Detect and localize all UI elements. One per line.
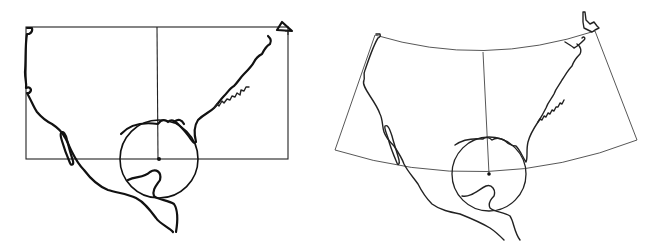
center-point xyxy=(157,157,161,161)
gulf-north-coast xyxy=(121,36,271,143)
south-parallel xyxy=(335,140,637,172)
northeast-coast-detail xyxy=(538,100,564,122)
west-coastline xyxy=(25,28,173,232)
central-meridian xyxy=(483,52,489,174)
projection-comparison-figure xyxy=(0,0,653,242)
north-parallel xyxy=(375,31,595,51)
west-meridian xyxy=(335,35,375,150)
left-map-panel xyxy=(25,22,292,232)
central-meridian xyxy=(157,27,158,159)
gulf-and-east-coastline xyxy=(128,170,177,232)
center-point xyxy=(487,172,491,176)
right-map-panel xyxy=(335,12,637,240)
baja-california xyxy=(385,126,400,165)
newfoundland xyxy=(583,12,599,32)
gulf-coastline xyxy=(462,186,520,240)
northeast-coast-detail xyxy=(214,87,249,108)
east-meridian xyxy=(595,31,637,140)
